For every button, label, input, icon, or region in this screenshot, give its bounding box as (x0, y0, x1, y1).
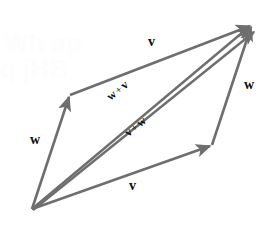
label-right-edge-w: w (244, 78, 254, 92)
vector-arrow-bottom-v (32, 146, 210, 209)
vector-addition-figure: Wh ap q jHB v v w w w+v v+w (0, 0, 277, 229)
vector-arrow-top-v (70, 26, 250, 95)
label-left-edge-w: w (30, 133, 40, 147)
label-bottom-edge-v: v (129, 179, 136, 193)
label-top-edge-v: v (148, 35, 155, 49)
